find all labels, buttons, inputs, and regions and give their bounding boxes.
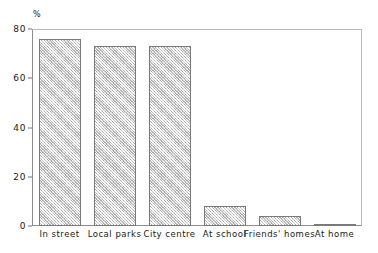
x-axis-tick-label: In street <box>40 228 80 240</box>
bar <box>39 39 81 226</box>
y-axis-tick-label: 60 <box>13 74 26 83</box>
y-axis-unit-label: % <box>33 10 41 20</box>
x-axis-tick-label: City centre <box>143 228 195 240</box>
x-axis-tick-label: Local parks <box>88 228 142 240</box>
bars-layer <box>32 29 362 226</box>
y-axis-tick-label: 20 <box>13 172 26 181</box>
bar <box>149 46 191 226</box>
x-axis: In streetLocal parksCity centreAt school… <box>32 228 362 244</box>
x-axis-tick-label: At home <box>315 228 354 240</box>
x-axis-tick-label: At school <box>203 228 246 240</box>
bar <box>314 224 356 226</box>
y-axis-tick-label: 40 <box>13 123 26 132</box>
bar <box>204 206 246 226</box>
bar <box>94 46 136 226</box>
y-axis: 020406080 <box>0 29 32 226</box>
bar-chart: % 020406080 In streetLocal parksCity cen… <box>0 0 378 253</box>
y-axis-tick-label: 0 <box>20 222 26 231</box>
x-axis-tick-label: Friends' homes <box>244 228 315 240</box>
y-axis-tick-label: 80 <box>13 25 26 34</box>
bar <box>259 216 301 226</box>
